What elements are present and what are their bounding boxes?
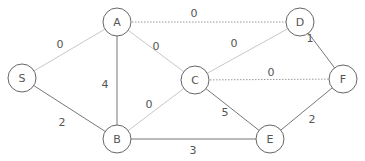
node-s: S <box>8 64 36 92</box>
node-label: C <box>191 74 199 87</box>
nodes-layer: SADCFBE <box>8 8 357 153</box>
node-label: S <box>19 72 26 85</box>
node-b: B <box>103 125 131 153</box>
edge-weight-s-a: 0 <box>57 38 64 51</box>
edge-c-b <box>117 80 195 139</box>
edge-weight-c-b: 0 <box>146 98 153 111</box>
edge-weight-b-e: 3 <box>190 144 197 157</box>
edge-weight-c-f: 0 <box>268 66 275 79</box>
edge-weight-a-b: 4 <box>102 78 109 91</box>
node-label: A <box>113 16 121 29</box>
edge-weight-a-d: 0 <box>191 7 198 20</box>
node-a: A <box>103 8 131 36</box>
node-d: D <box>286 8 314 36</box>
edge-d-c <box>195 22 300 80</box>
edge-weight-s-b: 2 <box>59 116 66 129</box>
node-label: D <box>296 16 304 29</box>
node-f: F <box>329 65 357 93</box>
node-label: B <box>113 133 121 146</box>
graph-diagram: 020040100532 SADCFBE <box>0 0 365 161</box>
edge-c-f <box>195 79 343 80</box>
node-e: E <box>256 125 284 153</box>
node-label: E <box>267 133 274 146</box>
edge-weight-c-e: 5 <box>222 106 229 119</box>
edge-weight-e-f: 2 <box>309 113 316 126</box>
node-c: C <box>181 66 209 94</box>
edge-weight-d-c: 0 <box>231 37 238 50</box>
edge-weight-a-c: 0 <box>153 40 160 53</box>
node-label: F <box>340 73 346 86</box>
edge-s-a <box>22 22 117 78</box>
